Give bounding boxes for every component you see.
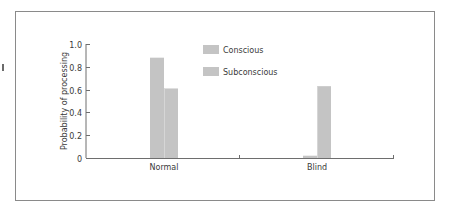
y-axis: 00.20.40.60.81.0 [69,41,90,164]
bar-conscious [303,156,317,158]
y-axis-title: Probability of processing [60,52,69,150]
bar-chart: 00.20.40.60.81.0 NormalBlind ConsciousSu… [0,0,449,212]
legend-swatch [203,67,219,76]
y-tick-label: 0.2 [69,132,82,141]
legend-label: Conscious [223,46,263,55]
legend-swatch [203,45,219,54]
y-tick-label: 0.8 [69,64,82,73]
bar-subconscious [164,88,178,158]
y-tick-label: 1.0 [69,41,82,50]
x-category-label: Normal [150,163,179,172]
bar-conscious [150,58,164,158]
x-category-label: Blind [307,163,327,172]
legend-label: Subconscious [223,68,278,77]
y-tick-label: 0.4 [69,109,82,118]
y-tick-label: 0 [77,155,82,164]
legend: ConsciousSubconscious [203,45,278,77]
x-axis: NormalBlind [86,155,394,172]
bar-subconscious [317,86,331,158]
y-tick-label: 0.6 [69,87,82,96]
